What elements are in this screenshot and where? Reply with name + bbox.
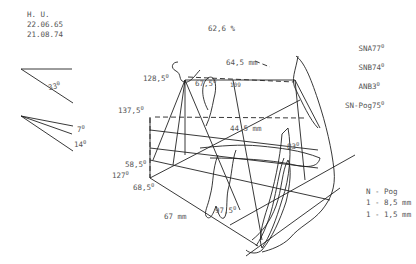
angle-14-label: 140: [74, 138, 86, 149]
legend-line-2: 1 - 1,5 mm: [366, 210, 411, 219]
measurement-label: ANB: [338, 82, 372, 91]
exam-date: 21.08.74: [27, 30, 63, 39]
sella-angle-label: 128,50: [143, 72, 169, 83]
measurement-value: 740: [372, 63, 384, 72]
mid-distance-label: 44,5 mm: [230, 124, 262, 133]
measurement-value: 30: [372, 82, 380, 91]
measurement-label: SNB: [338, 63, 372, 72]
measurement-label: SN-Pog: [338, 101, 372, 110]
measurements-table: SNA770 SNB740 ANB30 SN-Pog750: [338, 36, 384, 112]
small-value-label: 109: [230, 80, 241, 89]
patient-initials: H. U.: [27, 10, 50, 19]
legend-line-1: 1 - 8,5 mm: [366, 198, 411, 207]
measurement-value: 750: [372, 101, 384, 110]
construction-lines: [150, 80, 355, 256]
reference-angle-7-14: [21, 116, 73, 151]
inner-angle-label: 67,50: [195, 77, 216, 88]
top-distance-label: 64,5 mm: [226, 58, 258, 67]
birth-date: 22.06.65: [27, 20, 63, 29]
legend-title: N - Pog: [366, 187, 398, 196]
angle-7-label: 70: [77, 123, 85, 134]
upper-left-angle-label: 137,50: [118, 104, 144, 115]
lower-left-angle-b-label: 1270: [112, 169, 129, 180]
right-angle-label: 830: [287, 140, 299, 151]
bottom-distance-label: 67 mm: [164, 212, 187, 221]
lower-left-angle-a-label: 58,50: [125, 158, 146, 169]
title-value: 62,6 %: [208, 24, 235, 33]
measurement-label: SNA: [338, 44, 372, 53]
lower-left-angle-c-label: 68,50: [133, 181, 154, 192]
measurement-value: 770: [372, 44, 384, 53]
gonial-angle-label: 97,50: [215, 204, 236, 215]
